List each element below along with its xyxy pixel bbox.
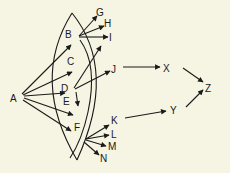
edge-D-I <box>74 46 101 88</box>
edge-B-H <box>79 26 104 36</box>
edge-F-N <box>84 142 99 155</box>
node-Z: Z <box>205 83 211 94</box>
edge-X-Z <box>183 68 203 82</box>
edge-Y-Z <box>186 90 203 107</box>
edge-F-M <box>86 140 106 146</box>
node-L: L <box>111 129 117 140</box>
node-N: N <box>100 153 107 164</box>
edge-A-D <box>24 93 65 96</box>
node-A: A <box>10 93 17 104</box>
node-B: B <box>65 29 72 40</box>
node-Y: Y <box>170 105 177 116</box>
node-I: I <box>109 32 112 43</box>
node-H: H <box>104 18 111 29</box>
node-F: F <box>74 122 80 133</box>
node-X: X <box>163 63 170 74</box>
node-M: M <box>108 141 116 152</box>
node-K: K <box>111 115 118 126</box>
edge-K-Y <box>125 111 166 118</box>
edge-D-E <box>76 92 78 106</box>
node-J: J <box>111 64 116 75</box>
node-G: G <box>96 7 104 18</box>
edge-D-J <box>75 71 110 89</box>
node-C: C <box>67 56 74 67</box>
node-E: E <box>63 96 70 107</box>
node-D: D <box>61 83 68 94</box>
diagram-canvas: A B C D E F G H I J K L M N X Y Z <box>0 0 230 173</box>
